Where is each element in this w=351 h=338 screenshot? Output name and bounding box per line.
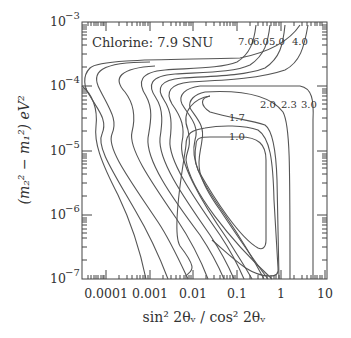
y-tick-labels: 10−3 10−4 10−5 10−6 10−7 <box>50 10 80 286</box>
contour-outer-c <box>85 25 300 279</box>
y-tick-label: 10−7 <box>50 267 80 286</box>
y-tick-label: 10−4 <box>50 74 80 93</box>
contour-label-1.0: 1.0 <box>229 131 245 142</box>
y-tick-label: 10−6 <box>50 203 80 222</box>
svg-text:10: 10 <box>50 143 66 158</box>
contour-lines <box>82 25 313 279</box>
svg-text:−5: −5 <box>65 139 80 150</box>
contour-outer-a <box>119 66 208 279</box>
x-axis-title: sin² 2θᵥ / cos² 2θᵥ <box>143 309 266 325</box>
y-tick-label: 10−3 <box>50 10 80 29</box>
contour-chart: Chlorine: 7.9 SNU 7.0 6.0 5.0 4.0 2.0 2.… <box>0 0 351 338</box>
svg-text:10: 10 <box>50 271 66 286</box>
contour-label-4.0: 4.0 <box>292 36 308 47</box>
x-tick-labels: 0.0001 0.001 0.01 0.1 1 10 <box>84 286 333 301</box>
contour-7.0 <box>141 25 256 279</box>
x-tick-label: 0.001 <box>132 286 168 301</box>
contour-3.0 <box>181 86 313 279</box>
x-tick-label: 0.01 <box>179 286 207 301</box>
svg-text:10: 10 <box>50 78 66 93</box>
contour-1.0 <box>195 137 266 249</box>
svg-text:−3: −3 <box>65 10 80 21</box>
y-axis-title: (m₂² − m₁²) eV² <box>16 95 32 204</box>
y-tick-label: 10−5 <box>50 139 80 158</box>
svg-text:−6: −6 <box>65 203 80 214</box>
svg-text:−7: −7 <box>65 267 80 278</box>
contour-label-3.0: 3.0 <box>301 99 317 110</box>
svg-text:−4: −4 <box>65 74 80 85</box>
contour-2.0 <box>203 96 280 279</box>
contour-label-7.0: 7.0 <box>238 36 254 47</box>
contour-label-1.7: 1.7 <box>229 112 245 123</box>
svg-text:10: 10 <box>50 14 66 29</box>
contour-label-5.0: 5.0 <box>269 36 285 47</box>
x-tick-label: 1 <box>277 286 285 301</box>
x-tick-label: 10 <box>317 286 333 301</box>
x-tick-label: 0.1 <box>227 286 247 301</box>
contour-label-6.0: 6.0 <box>253 36 269 47</box>
svg-text:10: 10 <box>50 207 66 222</box>
contour-1.7 <box>177 126 278 276</box>
contour-outer-d <box>82 86 146 279</box>
contour-outer-b <box>97 62 188 279</box>
contour-label-2.3: 2.3 <box>281 99 297 110</box>
chlorine-annotation: Chlorine: 7.9 SNU <box>92 35 213 50</box>
x-tick-label: 0.0001 <box>84 286 128 301</box>
contour-label-2.0: 2.0 <box>260 99 276 110</box>
